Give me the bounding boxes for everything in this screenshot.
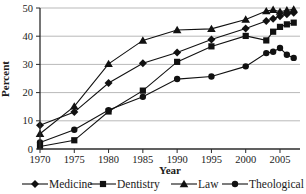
legend-square-icon xyxy=(100,181,106,187)
legend-label: Theological xyxy=(249,178,304,191)
x-tick-label: 1995 xyxy=(201,154,222,165)
legend-circle-icon xyxy=(232,181,238,187)
dentistry-marker xyxy=(71,137,77,143)
y-tick-label: 0 xyxy=(28,144,33,155)
theological-marker xyxy=(243,63,249,69)
theological-marker xyxy=(140,94,146,100)
law-marker xyxy=(269,5,278,12)
dentistry-marker xyxy=(243,33,249,39)
medicine-marker xyxy=(269,15,277,23)
medicine-marker xyxy=(139,59,147,67)
theological-line xyxy=(40,48,294,143)
law-marker xyxy=(289,5,298,12)
medicine-line xyxy=(40,13,294,126)
legend-item-theological: Theological xyxy=(222,178,304,191)
theological-marker xyxy=(291,55,297,61)
y-axis-title: Percent xyxy=(0,61,11,97)
legend-label: Law xyxy=(198,178,219,190)
legend: MedicineDentistryLawTheological xyxy=(22,178,304,191)
y-tick-label: 20 xyxy=(23,87,34,98)
medicine-marker xyxy=(173,49,181,57)
theological-marker xyxy=(71,127,77,133)
theological-marker xyxy=(105,107,111,113)
theological-marker xyxy=(270,49,276,55)
medicine-marker xyxy=(242,25,250,33)
theological-marker xyxy=(284,52,290,58)
dentistry-marker xyxy=(270,29,276,35)
law-marker xyxy=(104,60,113,67)
legend-item-medicine: Medicine xyxy=(22,178,92,190)
x-tick-label: 1975 xyxy=(64,154,85,165)
medicine-marker xyxy=(207,36,215,44)
theological-marker xyxy=(277,45,283,51)
dentistry-marker xyxy=(291,20,297,26)
medicine-marker xyxy=(262,17,270,25)
x-tick-label: 1980 xyxy=(98,154,119,165)
professional-degrees-chart: 0102030405019701975198019851990199520002… xyxy=(0,0,306,194)
law-marker xyxy=(241,15,250,22)
dentistry-marker xyxy=(277,24,283,30)
dentistry-marker xyxy=(284,21,290,27)
y-tick-label: 40 xyxy=(23,31,34,42)
y-tick-label: 50 xyxy=(23,3,34,14)
law-line xyxy=(40,9,294,133)
x-axis-title: Year xyxy=(159,164,181,176)
x-tick-label: 2005 xyxy=(269,154,290,165)
y-tick-label: 10 xyxy=(23,115,34,126)
theological-marker xyxy=(208,73,214,79)
theological-marker xyxy=(263,50,269,56)
x-tick-label: 1970 xyxy=(30,154,51,165)
theological-marker xyxy=(174,76,180,82)
legend-item-law: Law xyxy=(171,178,219,190)
chart-canvas: 0102030405019701975198019851990199520002… xyxy=(0,0,306,194)
legend-label: Dentistry xyxy=(117,178,160,191)
x-tick-label: 1985 xyxy=(132,154,153,165)
y-tick-label: 30 xyxy=(23,59,34,70)
theological-markers xyxy=(37,45,297,146)
dentistry-marker xyxy=(208,43,214,49)
dentistry-marker xyxy=(263,37,269,43)
dentistry-marker xyxy=(140,88,146,94)
legend-label: Medicine xyxy=(49,178,92,190)
dentistry-marker xyxy=(174,59,180,65)
legend-item-dentistry: Dentistry xyxy=(90,178,160,191)
x-tick-label: 2000 xyxy=(235,154,256,165)
medicine-markers xyxy=(36,9,298,130)
legend-diamond-icon xyxy=(31,180,39,188)
